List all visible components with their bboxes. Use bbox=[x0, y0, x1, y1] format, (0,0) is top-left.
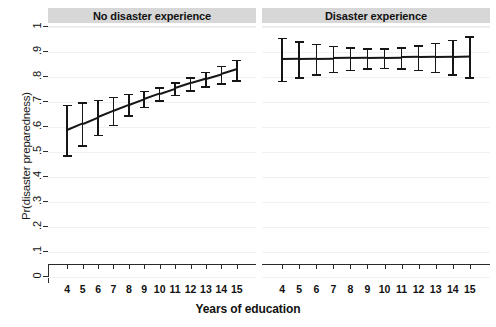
fitted-line-segment bbox=[282, 58, 299, 60]
error-bar bbox=[469, 36, 471, 77]
x-tick-mark bbox=[419, 265, 420, 269]
x-tick-mark bbox=[282, 265, 283, 269]
error-bar bbox=[143, 91, 145, 107]
x-axis-title: Years of education bbox=[0, 302, 496, 316]
error-bar-cap-upper bbox=[217, 66, 226, 68]
error-bar-cap-lower bbox=[380, 68, 389, 70]
x-tick-mark bbox=[98, 265, 99, 269]
error-bar-cap-lower bbox=[329, 72, 338, 74]
error-bar bbox=[401, 47, 403, 68]
error-bar-cap-upper bbox=[140, 91, 149, 93]
error-bar bbox=[159, 87, 161, 100]
fitted-line-segment bbox=[299, 58, 316, 60]
error-bar bbox=[418, 45, 420, 70]
error-bar-cap-upper bbox=[414, 45, 423, 47]
error-bar-cap-upper bbox=[171, 82, 180, 84]
error-bar-cap-lower bbox=[94, 135, 103, 137]
error-bar bbox=[82, 102, 84, 145]
error-bar bbox=[298, 41, 300, 77]
fitted-line-segment bbox=[367, 57, 384, 59]
panel-disaster-experience: Disaster experience bbox=[262, 8, 490, 283]
error-bar-cap-lower bbox=[201, 86, 210, 88]
x-tick-mark bbox=[470, 265, 471, 269]
x-tick-mark bbox=[453, 265, 454, 269]
error-bar-cap-upper bbox=[431, 43, 440, 45]
error-bar-cap-upper bbox=[155, 87, 164, 89]
x-tick-mark bbox=[316, 265, 317, 269]
y-axis-tick-labels: 0.1.2.3.4.5.6.7.8.91 bbox=[28, 32, 46, 282]
error-bar bbox=[128, 94, 130, 115]
error-bar-cap-lower bbox=[186, 90, 195, 92]
error-bar-cap-upper bbox=[109, 97, 118, 99]
error-bar-cap-lower bbox=[155, 100, 164, 102]
fitted-line-segment bbox=[419, 56, 436, 58]
x-tick-mark bbox=[333, 265, 334, 269]
grid-line bbox=[262, 27, 490, 28]
fitted-line-segment bbox=[350, 57, 367, 59]
y-tick-mark bbox=[43, 251, 48, 252]
error-bar-cap-lower bbox=[278, 81, 287, 83]
y-tick-mark bbox=[43, 101, 48, 102]
error-bar-cap-lower bbox=[109, 125, 118, 127]
error-bar-cap-lower bbox=[295, 77, 304, 79]
error-bar-cap-upper bbox=[312, 44, 321, 46]
error-bar-cap-lower bbox=[124, 115, 133, 117]
x-axis-line bbox=[262, 264, 490, 265]
x-tick-mark bbox=[237, 265, 238, 269]
x-tick-mark bbox=[436, 265, 437, 269]
error-bar-cap-upper bbox=[397, 47, 406, 49]
error-bar bbox=[435, 43, 437, 72]
x-tick-mark bbox=[402, 265, 403, 269]
y-tick-mark bbox=[43, 176, 48, 177]
y-tick-mark bbox=[43, 51, 48, 52]
grid-line bbox=[48, 202, 256, 203]
error-bar bbox=[97, 100, 99, 135]
error-bar bbox=[66, 105, 68, 156]
fitted-line-segment bbox=[402, 56, 419, 58]
plot-area-left bbox=[48, 26, 256, 265]
y-tick-mark bbox=[43, 126, 48, 127]
error-bar-cap-lower bbox=[397, 68, 406, 70]
error-bar-cap-upper bbox=[465, 36, 474, 38]
y-tick-mark bbox=[43, 276, 48, 277]
error-bar-cap-upper bbox=[295, 41, 304, 43]
error-bar-cap-lower bbox=[63, 155, 72, 157]
error-bar-cap-lower bbox=[171, 95, 180, 97]
grid-line bbox=[48, 152, 256, 153]
error-bar bbox=[333, 46, 335, 72]
error-bar-cap-lower bbox=[140, 107, 149, 109]
error-bar-cap-lower bbox=[363, 68, 372, 70]
fitted-line-segment bbox=[98, 110, 114, 118]
grid-line bbox=[48, 77, 256, 78]
x-tick-mark bbox=[129, 265, 130, 269]
fitted-line-segment bbox=[190, 78, 206, 84]
panel-title-right: Disaster experience bbox=[262, 8, 490, 23]
error-bar bbox=[350, 47, 352, 70]
x-tick-mark bbox=[83, 265, 84, 269]
grid-line bbox=[262, 227, 490, 228]
error-bar-cap-lower bbox=[448, 74, 457, 76]
grid-line bbox=[262, 177, 490, 178]
plot-area-right bbox=[262, 26, 490, 265]
fitted-line-segment bbox=[221, 69, 237, 75]
error-bar-cap-lower bbox=[465, 77, 474, 79]
grid-line bbox=[48, 227, 256, 228]
x-tick-mark bbox=[299, 265, 300, 269]
error-bar-cap-upper bbox=[346, 47, 355, 49]
x-tick-mark bbox=[385, 265, 386, 269]
grid-line bbox=[48, 27, 256, 28]
error-bar bbox=[367, 48, 369, 68]
grid-line bbox=[262, 102, 490, 103]
error-bar bbox=[281, 38, 283, 81]
x-tick-label: 15 bbox=[227, 283, 247, 295]
error-bar-cap-upper bbox=[363, 48, 372, 50]
error-bar-cap-upper bbox=[124, 94, 133, 96]
y-tick-mark bbox=[43, 76, 48, 77]
error-bar bbox=[384, 48, 386, 68]
grid-line bbox=[262, 152, 490, 153]
error-bar-cap-upper bbox=[448, 40, 457, 42]
grid-line bbox=[262, 202, 490, 203]
grid-line bbox=[262, 127, 490, 128]
x-tick-mark bbox=[113, 265, 114, 269]
fitted-line-segment bbox=[385, 56, 402, 58]
